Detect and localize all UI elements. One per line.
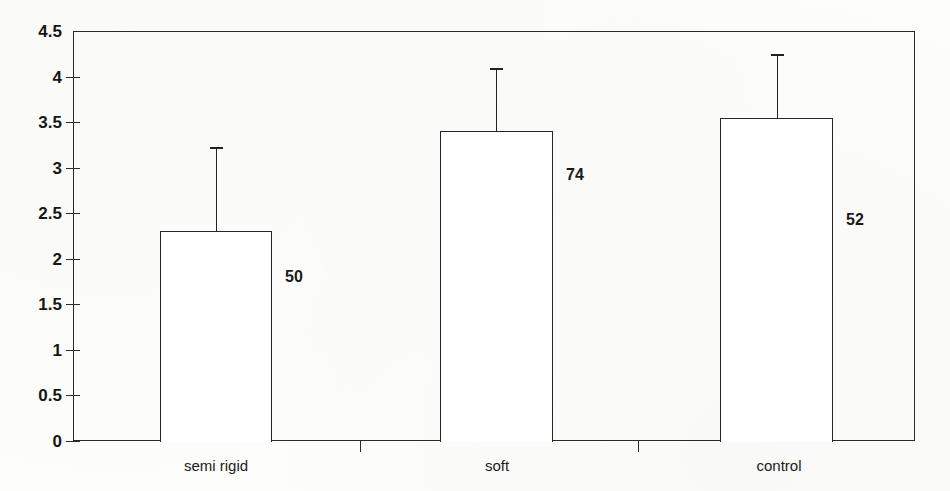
error-bar-stem-soft [496, 68, 497, 132]
x-category-label-semi-rigid: semi rigid [184, 458, 248, 473]
y-tick-label-1-5: 1.5 [38, 296, 62, 313]
error-bar-cap-soft [490, 68, 503, 70]
y-tick-label-4: 4 [53, 69, 62, 86]
y-tick-label-0-5: 0.5 [38, 387, 62, 404]
x-category-label-control: control [756, 458, 801, 473]
y-tick-label-2-5: 2.5 [38, 205, 62, 222]
bar-value-label-control: 52 [846, 212, 864, 228]
y-tick-label-3: 3 [53, 160, 62, 177]
error-bar-cap-semi-rigid [210, 147, 223, 149]
y-tick-label-1: 1 [53, 342, 62, 359]
x-axis-separator-tick-1 [360, 441, 361, 452]
y-axis-tick-label-group: 4.5 4 3.5 3 2.5 2 1.5 1 0.5 0 [0, 0, 62, 491]
error-bar-stem-semi-rigid [216, 147, 217, 232]
y-tick-label-3-5: 3.5 [38, 114, 62, 131]
x-axis-separator-tick-2 [638, 441, 639, 452]
y-tick-label-2: 2 [53, 251, 62, 268]
y-tick-label-4-5: 4.5 [38, 23, 62, 40]
bar-value-label-semi-rigid: 50 [285, 269, 303, 285]
bar-semi-rigid[interactable] [160, 231, 272, 442]
y-tick-mark-0 [66, 441, 80, 442]
bar-control[interactable] [720, 118, 833, 442]
error-bar-cap-control [771, 54, 784, 56]
y-tick-label-0: 0 [53, 433, 62, 450]
bar-chart: 4.5 4 3.5 3 2.5 2 1.5 1 0.5 0 50 semi ri… [0, 0, 950, 491]
bar-soft[interactable] [440, 131, 553, 442]
x-category-label-soft: soft [485, 458, 509, 473]
bar-value-label-soft: 74 [566, 167, 584, 183]
error-bar-stem-control [777, 54, 778, 119]
